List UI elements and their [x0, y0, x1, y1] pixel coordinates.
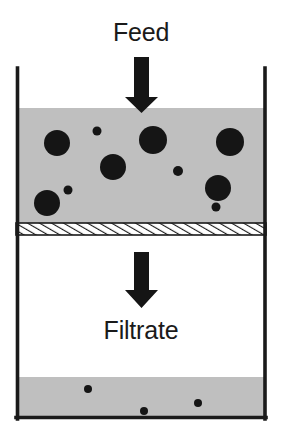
filter-membrane-band [16, 223, 266, 235]
filtration-diagram: Feed Filtrate [0, 0, 284, 437]
filtrate-label: Filtrate [104, 318, 179, 343]
retained-particle [100, 154, 126, 180]
retained-particle [173, 166, 183, 176]
retained-particle [205, 175, 231, 201]
filtrate-arrow-icon [125, 252, 158, 308]
vessel-group [16, 68, 266, 419]
passed-particle [84, 385, 92, 393]
filtration-schematic-canvas [0, 0, 284, 437]
retained-particle [34, 190, 60, 216]
retained-particle [212, 203, 221, 212]
passed-particle [194, 399, 202, 407]
feed-arrow-icon [125, 57, 158, 113]
retained-particle [93, 127, 102, 136]
passed-particle [140, 407, 148, 415]
retained-particle [44, 130, 70, 156]
retained-particle [64, 186, 73, 195]
retained-particle [216, 128, 244, 156]
feed-label: Feed [113, 20, 169, 45]
retained-particle [139, 126, 167, 154]
